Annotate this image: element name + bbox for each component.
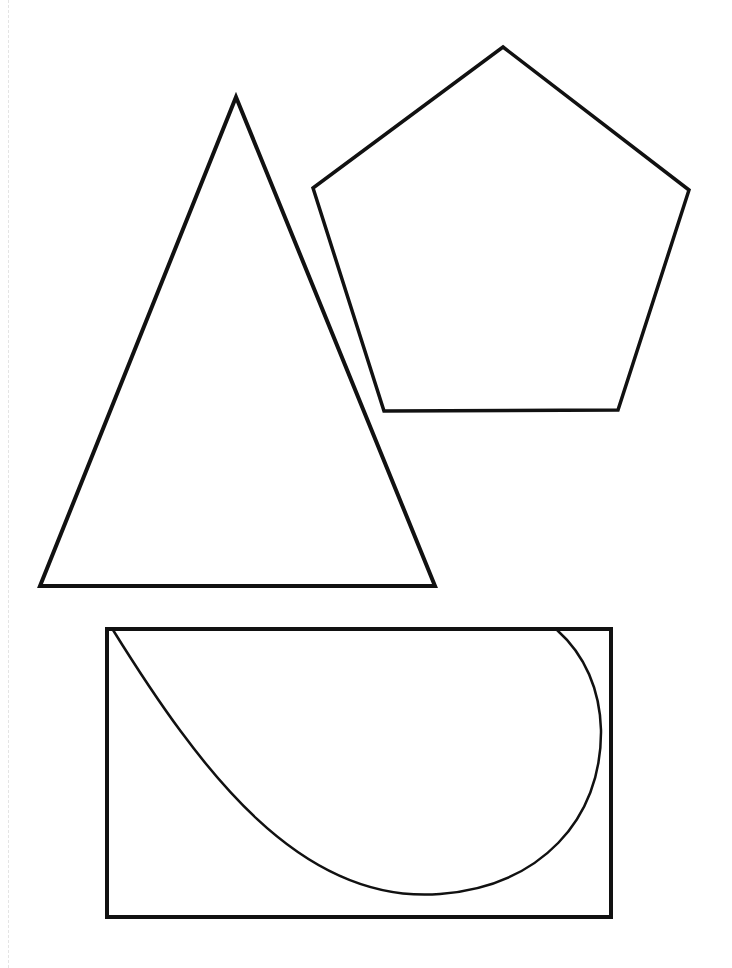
pentagon-shape [313, 47, 689, 411]
triangle-shape [40, 97, 435, 586]
rectangle-shape [107, 629, 611, 917]
curve-arc [113, 630, 601, 895]
diagram-canvas [0, 0, 732, 968]
